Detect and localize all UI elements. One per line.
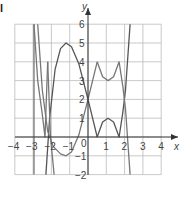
y-tick-label: 6: [79, 19, 85, 30]
x-tick-label: 4: [158, 141, 164, 152]
x-tick-label: 3: [140, 141, 146, 152]
tick-labels: −4−3−2−11234−2−1123456: [8, 19, 164, 180]
origin-label: 0: [81, 138, 87, 149]
y-tick-label: 2: [79, 94, 85, 105]
x-axis-label: x: [173, 141, 180, 152]
y-tick-label: 4: [79, 57, 85, 68]
y-tick-label: 1: [79, 113, 85, 124]
x-axis-arrow-icon: [171, 134, 178, 140]
y-tick-label: 3: [79, 76, 85, 87]
x-tick-label: −1: [63, 141, 75, 152]
function-graph: x y 0 −4−3−2−11234−2−1123456: [0, 0, 189, 197]
y-axis-label: y: [81, 1, 88, 12]
x-tick-label: 1: [103, 141, 109, 152]
series-curve-arch: [46, 43, 97, 175]
y-tick-label: −1: [75, 151, 87, 162]
y-tick-label: −2: [75, 170, 87, 181]
x-tick-label: −4: [8, 141, 20, 152]
x-tick-label: −3: [26, 141, 38, 152]
axes: x y 0: [15, 1, 180, 175]
y-tick-label: 5: [79, 38, 85, 49]
x-tick-label: 2: [122, 141, 128, 152]
x-tick-label: −2: [44, 141, 56, 152]
